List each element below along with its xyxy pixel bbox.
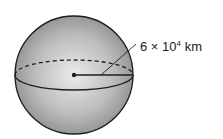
radius-label: 6 × 104 km <box>140 36 202 55</box>
times-symbol: × <box>151 39 159 54</box>
sphere-diagram <box>0 0 223 139</box>
radius-unit: km <box>185 39 202 54</box>
center-point <box>72 73 76 77</box>
radius-base: 10 <box>162 39 176 54</box>
radius-coefficient: 6 <box>140 39 147 54</box>
radius-exponent: 4 <box>177 39 181 48</box>
